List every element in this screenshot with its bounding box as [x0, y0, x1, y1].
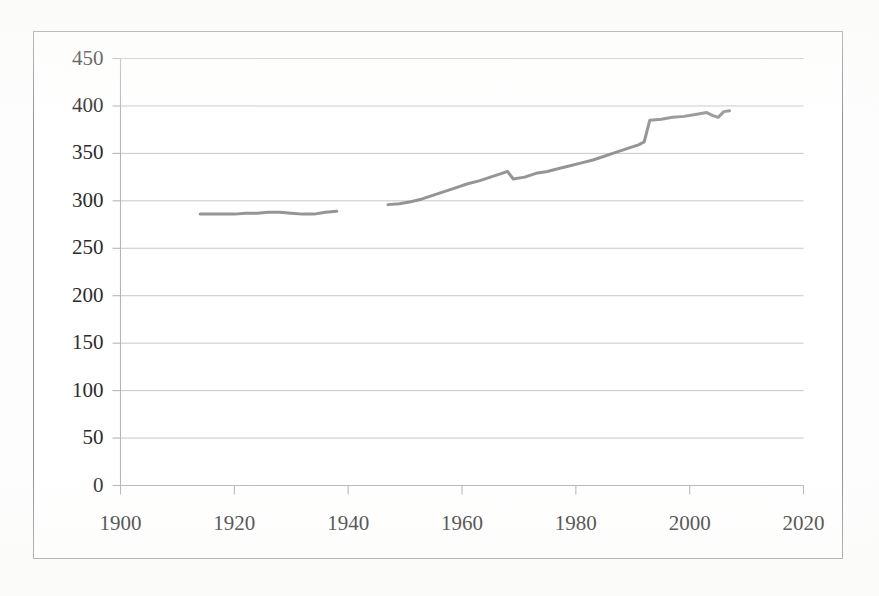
chart-plot-svg	[0, 0, 879, 596]
y-tick-label-250: 250	[46, 237, 104, 258]
x-tick-label-1960: 1960	[427, 513, 497, 534]
axis-lines-group	[121, 59, 804, 486]
y-tick-label-300: 300	[46, 190, 104, 211]
y-tick-label-350: 350	[46, 142, 104, 163]
series-line-early-record	[200, 211, 337, 214]
x-tick-label-1940: 1940	[313, 513, 383, 534]
y-tick-label-200: 200	[46, 285, 104, 306]
y-tick-label-400: 400	[46, 95, 104, 116]
x-tick-label-1920: 1920	[199, 513, 269, 534]
gridlines-group	[121, 59, 804, 486]
x-tick-marks-group	[121, 486, 804, 495]
series-line-modern-record	[388, 111, 730, 205]
x-tick-label-2000: 2000	[655, 513, 725, 534]
x-tick-label-1900: 1900	[86, 513, 156, 534]
y-tick-label-0: 0	[46, 475, 104, 496]
x-tick-label-2020: 2020	[769, 513, 839, 534]
y-tick-marks-group	[113, 59, 121, 486]
data-series-group	[200, 111, 729, 214]
y-tick-label-150: 150	[46, 332, 104, 353]
x-tick-label-1980: 1980	[541, 513, 611, 534]
y-tick-label-450: 450	[46, 48, 104, 69]
y-tick-label-100: 100	[46, 380, 104, 401]
chart-figure: 050100150200250300350400450 190019201940…	[0, 0, 879, 596]
y-tick-label-50: 50	[46, 427, 104, 448]
